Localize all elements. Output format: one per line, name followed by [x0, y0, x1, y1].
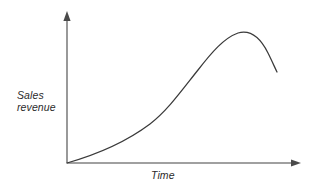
- y-axis-arrowhead-icon: [63, 11, 70, 21]
- y-axis-label: Sales revenue: [17, 89, 56, 113]
- x-axis-label: Time: [151, 169, 175, 181]
- sales-revenue-curve: [67, 32, 277, 163]
- sales-revenue-time-chart: Sales revenue Time: [0, 0, 317, 192]
- x-axis-arrowhead-icon: [291, 159, 301, 166]
